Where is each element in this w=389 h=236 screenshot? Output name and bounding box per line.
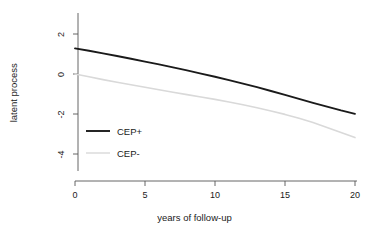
- x-tick-label-0: 0: [65, 191, 85, 200]
- y-axis-ticks: [73, 34, 78, 154]
- series-line-cep-minusplus: [75, 48, 355, 113]
- data-series-layer: [75, 48, 355, 137]
- y-tick-label-minus2: -2: [57, 106, 66, 124]
- x-tick-label-15: 15: [275, 191, 295, 200]
- x-tick-label-10: 10: [205, 191, 225, 200]
- y-tick-label-minus4: -4: [57, 146, 66, 164]
- y-axis-title: latent process: [9, 45, 19, 141]
- y-tick-label-0: 0: [57, 66, 66, 84]
- legend-keys: [86, 131, 110, 153]
- chart-figure: 2 0 -2 -4 0 5 10 15 20 years of follow-u…: [0, 0, 389, 236]
- x-tick-label-5: 5: [135, 191, 155, 200]
- y-tick-label-2: 2: [57, 26, 66, 44]
- x-tick-label-20: 20: [345, 191, 365, 200]
- legend-label-cep-plus: CEP+: [117, 127, 142, 137]
- x-axis-title: years of follow-up: [0, 213, 389, 223]
- x-axis-ticks: [75, 181, 355, 186]
- legend-label-cep-minus: CEP-: [117, 149, 140, 159]
